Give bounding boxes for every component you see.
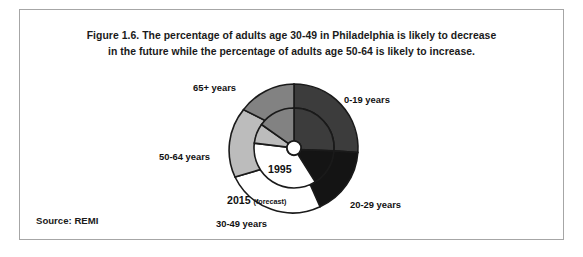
donut-center-hub <box>287 141 301 155</box>
ring-label-2015-year: 2015 <box>227 194 251 206</box>
source-note: Source: REMI <box>36 215 98 226</box>
ring-label-2015-forecast: (forecast) <box>254 197 287 206</box>
donut-chart-svg <box>20 10 565 241</box>
donut-chart: 0-19 years 20-29 years 30-49 years 50-64… <box>20 10 565 241</box>
figure-frame: Figure 1.6. The percentage of adults age… <box>19 9 564 240</box>
ring-label-1995: 1995 <box>268 163 292 175</box>
slice-label-30-49: 30-49 years <box>216 218 267 229</box>
ring-label-2015: 2015(forecast) <box>227 194 286 206</box>
slice-label-50-64: 50-64 years <box>159 151 210 162</box>
slice-label-0-19: 0-19 years <box>344 94 390 105</box>
slice-label-65-plus: 65+ years <box>193 82 236 93</box>
slice-label-20-29: 20-29 years <box>350 199 401 210</box>
